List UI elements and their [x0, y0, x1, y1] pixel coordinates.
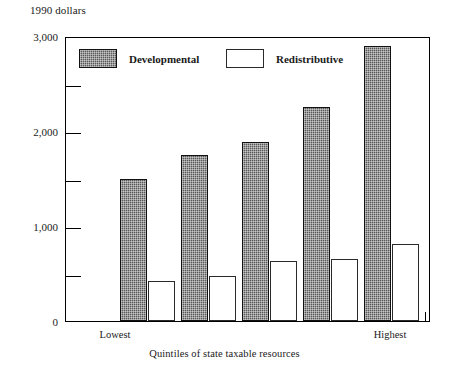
x-axis-title: Quintiles of state taxable resources: [0, 348, 449, 359]
plot-area: Developmental Redistributive: [65, 37, 430, 322]
legend-swatch-developmental: [79, 49, 117, 68]
y-axis-tick-labels: 3,000 2,000 1,000 0: [0, 0, 60, 374]
y-tick-label-2000: 2,000: [0, 126, 58, 138]
x-tick-label-lowest: Lowest: [100, 329, 131, 340]
bar-developmental-2: [181, 155, 208, 321]
legend-label-redistributive: Redistributive: [276, 53, 343, 65]
bar-developmental-4: [303, 107, 330, 321]
y-tick-label-0: 0: [0, 316, 58, 328]
legend-label-developmental: Developmental: [129, 53, 199, 65]
y-tick-label-3000: 3,000: [0, 31, 58, 43]
bar-redistributive-4: [331, 259, 358, 321]
bar-redistributive-5: [392, 244, 419, 321]
x-tick-label-highest: Highest: [374, 329, 407, 340]
bars-layer: [66, 38, 429, 321]
bar-developmental-5: [364, 46, 391, 321]
bar-developmental-1: [120, 179, 147, 322]
y-tick-label-1000: 1,000: [0, 221, 58, 233]
bar-redistributive-1: [148, 281, 175, 321]
bar-chart: 1990 dollars 3,000 2,000 1,000 0 Develop…: [0, 0, 449, 374]
bar-redistributive-2: [209, 276, 236, 321]
bar-developmental-3: [242, 142, 269, 321]
bar-redistributive-3: [270, 261, 297, 321]
legend-swatch-redistributive: [226, 49, 264, 68]
